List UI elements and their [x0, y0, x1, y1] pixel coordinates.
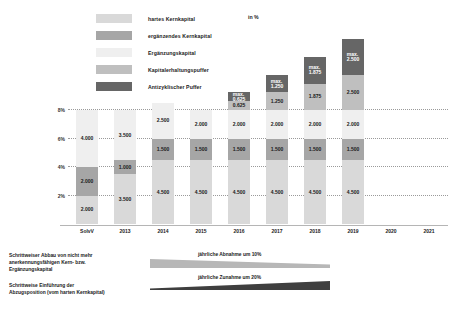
- bar-segment-value-label: 2.500: [347, 90, 360, 95]
- bar-segment: 1.250: [266, 92, 287, 110]
- legend-swatch-kapitalerhaltungspuffer: [96, 65, 132, 74]
- bar-segment: 2.500: [342, 75, 363, 111]
- bar-segment: 3.500: [114, 174, 135, 224]
- bar-segment-value-label: 2.000: [195, 122, 208, 127]
- footnote-line: anerkennungsfähigen Kern- bzw.: [9, 259, 159, 266]
- footnote-line: Schrittweiser Abbau von nicht mehr: [9, 252, 159, 259]
- bar-segment-value-label: 2.000: [347, 122, 360, 127]
- bar-segment: 2.000: [76, 196, 97, 224]
- bar-segment: 2.000: [76, 167, 97, 195]
- bar-column: 4.5001.5002.0001.250max.1.250: [258, 96, 296, 224]
- bar-segment-value-label: 0.625: [233, 103, 246, 108]
- x-axis-tick-label: SolvV: [68, 228, 106, 234]
- bar-segment-value-label: 1.250: [271, 99, 284, 104]
- y-axis-tick-label: 6%: [58, 136, 65, 142]
- bar-segment: 1.500: [342, 139, 363, 160]
- bar-segment-value-label: 4.500: [309, 190, 322, 195]
- legend-swatch-hartes-kernkapital: [96, 14, 132, 23]
- bar-segment-value-label: 3.500: [119, 133, 132, 138]
- bar-segment: 0.625: [228, 101, 249, 110]
- arrow-annotation: jährliche Zunahme um 20%: [150, 275, 450, 291]
- legend-label: hartes Kernkapital: [148, 16, 195, 22]
- legend-item: Antizyklischer Puffer: [96, 80, 326, 93]
- bar-segment-value-label: 2.000: [81, 207, 94, 212]
- bar-segment: max.1.875: [304, 57, 325, 84]
- bar-segment: 4.500: [342, 160, 363, 224]
- y-axis-tick-label: 8%: [58, 107, 65, 113]
- footnote-arrow-annotations: jährliche Abnahme um 10%jährliche Zunahm…: [150, 252, 450, 297]
- x-axis-tick-label: 2017: [258, 228, 296, 234]
- bar-segment: 2.000: [228, 110, 249, 138]
- bar-segment: 2.000: [190, 110, 211, 138]
- bar-stack: 4.5001.5002.0001.250max.1.250: [266, 75, 287, 224]
- unit-label: in %: [248, 14, 259, 20]
- decreasing-wedge-icon: [150, 259, 450, 268]
- legend-swatch-antizyklischer-puffer: [96, 82, 132, 91]
- bar-segment-value-label: 4.500: [271, 190, 284, 195]
- x-axis-tick-label: 2014: [144, 228, 182, 234]
- bar-column: 3.5001.0003.500: [106, 96, 144, 224]
- bar-segment-value-label: 4.500: [233, 190, 246, 195]
- bar-segment-value-label: 1.500: [233, 147, 246, 152]
- bar-stack: 2.0002.0004.000: [76, 110, 97, 224]
- bar-segment-value-label: 4.500: [195, 190, 208, 195]
- bar-segment: 2.000: [304, 110, 325, 138]
- y-axis-tick-label: 4%: [58, 164, 65, 170]
- x-axis-tick-label: 2015: [182, 228, 220, 234]
- legend-item: hartes Kernkapital: [96, 12, 326, 25]
- bar-segment: 4.500: [190, 160, 211, 224]
- x-axis-labels: SolvV20132014201520162017201820192020202…: [68, 228, 448, 234]
- bar-column: 4.5001.5002.000: [182, 96, 220, 224]
- bar-segment: max.2.500: [342, 39, 363, 75]
- bar-stack: 4.5001.5002.0001.875max.1.875: [304, 57, 325, 224]
- bar-segment: 2.000: [342, 110, 363, 138]
- arrow-annotation-label: jährliche Abnahme um 10%: [198, 252, 450, 257]
- x-axis-line: [60, 225, 448, 226]
- bar-segment: 1.875: [304, 84, 325, 111]
- bar-segment: 4.500: [228, 160, 249, 224]
- bar-columns: 2.0002.0004.0003.5001.0003.5004.5001.500…: [68, 96, 448, 224]
- increasing-wedge-icon: [150, 281, 450, 290]
- bar-segment-value-label: 2.000: [309, 122, 322, 127]
- legend-label: Ergänzungskapital: [148, 50, 196, 56]
- footnote-text-blocks: Schrittweiser Abbau von nicht mehranerke…: [9, 252, 159, 306]
- bar-segment: 4.500: [152, 160, 173, 224]
- bar-segment-value-label: max.1.250: [271, 79, 284, 89]
- arrow-annotation: jährliche Abnahme um 10%: [150, 252, 450, 268]
- bar-stack: 3.5001.0003.500: [114, 110, 135, 224]
- bar-segment-value-label: max.1.875: [309, 65, 322, 75]
- x-axis-tick-label: 2013: [106, 228, 144, 234]
- bar-segment-value-label: 4.000: [81, 136, 94, 141]
- bar-segment: 1.500: [266, 139, 287, 160]
- bar-segment: max.0.625: [228, 92, 249, 101]
- bar-segment-value-label: 3.500: [119, 197, 132, 202]
- x-axis-tick-label: 2019: [334, 228, 372, 234]
- x-axis-tick-label: 2020: [372, 228, 410, 234]
- bar-segment-value-label: 2.500: [157, 118, 170, 123]
- bar-segment: 1.500: [228, 139, 249, 160]
- legend-item: Ergänzungskapital: [96, 46, 326, 59]
- x-axis-tick-label: 2021: [410, 228, 448, 234]
- bar-column: 4.5001.5002.0000.625max.0.625: [220, 96, 258, 224]
- bar-segment: 4.500: [304, 160, 325, 224]
- bar-segment-value-label: 1.500: [157, 147, 170, 152]
- footnote-line: Ergänzungskapital: [9, 266, 159, 273]
- bar-segment: 1.500: [152, 139, 173, 160]
- footnote-block: Schrittweise Einführung derAbzugspositio…: [9, 282, 159, 296]
- bar-segment-value-label: 2.000: [81, 179, 94, 184]
- footnote-line: Abzugsposition (vom harten Kernkapital): [9, 289, 159, 296]
- bar-segment-value-label: max.2.500: [347, 52, 360, 62]
- bar-column: 4.5001.5002.500: [144, 96, 182, 224]
- bar-column: 4.5001.5002.0001.875max.1.875: [296, 96, 334, 224]
- bar-column: 4.5001.5002.0002.500max.2.500: [334, 96, 372, 224]
- bar-segment-value-label: 1.500: [195, 147, 208, 152]
- bar-segment-value-label: 4.500: [347, 190, 360, 195]
- chart-plot-area: 2%4%6%8% 2.0002.0004.0003.5001.0003.5004…: [60, 96, 448, 224]
- bar-segment-value-label: 1.500: [347, 147, 360, 152]
- bar-stack: 4.5001.5002.0002.500max.2.500: [342, 39, 363, 224]
- x-axis-tick-label: 2018: [296, 228, 334, 234]
- bar-segment: max.1.250: [266, 75, 287, 93]
- bar-segment-value-label: 1.875: [309, 94, 322, 99]
- bar-segment: 2.000: [266, 110, 287, 138]
- legend-label: Antizyklischer Puffer: [148, 84, 202, 90]
